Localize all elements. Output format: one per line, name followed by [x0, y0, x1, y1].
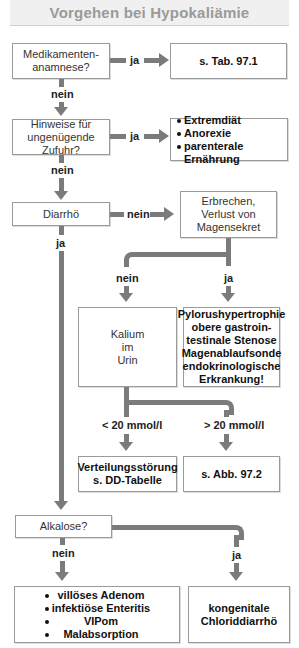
node-medikamentenanamnese: Medikamenten- anamnese?: [12, 43, 110, 79]
connector-zufuhr-ja-2: [144, 134, 160, 139]
connector-erbrechen-nein: [124, 262, 129, 266]
connector-alkalose-ja-horizontal: [112, 525, 230, 530]
label-ja-4: ja: [222, 272, 235, 284]
connector-med-ja-2: [144, 58, 160, 63]
label-ja-3: ja: [54, 237, 67, 249]
title-bar: Vorgehen bei Hypokaliämie: [10, 0, 289, 26]
connector-diarrhoe-nein-2: [150, 212, 164, 217]
zufuhr-causes-list: Extremdiät Anorexie parenterale Ernährun…: [176, 114, 287, 166]
arrow-down-icon: [55, 572, 69, 581]
list-item: parenterale Ernährung: [176, 140, 287, 166]
arrow-down-icon: [54, 191, 68, 200]
arrow-right-icon: [159, 53, 169, 67]
node-erbrechen: Erbrechen, Verlust von Magensekret: [180, 191, 277, 238]
connector-med-ja: [110, 58, 126, 63]
arrow-down-icon: [119, 442, 133, 451]
list-item: Malabsorption: [44, 628, 150, 641]
list-item: Anorexie: [176, 127, 287, 140]
connector-zufuhr-nein-2: [59, 178, 64, 192]
node-kongenitale-chloriddiarrhoe: kongenitale Chloriddiarrhö: [188, 586, 290, 643]
list-item: villöses Adenom: [44, 589, 150, 602]
label-ja-5: ja: [230, 549, 243, 561]
label-nein-1: nein: [49, 88, 76, 100]
node-zufuhr-causes: Extremdiät Anorexie parenterale Ernährun…: [170, 118, 288, 161]
connector-alkalose-ja: [234, 535, 239, 547]
arrow-down-icon: [221, 293, 235, 302]
node-diarrhoe: Diarrhö: [12, 202, 110, 226]
node-alkalose-nein-causes: villöses Adenom infektiöse Enteritis VIP…: [14, 586, 180, 643]
node-verteilungsstoerung: Verteilungsstörung s. DD-Tabelle: [78, 456, 177, 492]
label-gt-20-mmol: > 20 mmol/l: [202, 419, 266, 431]
connector-diarrhoe-ja: [59, 226, 64, 235]
connector-kalium-horizontal: [124, 400, 219, 405]
connector-zufuhr-nein: [59, 155, 64, 163]
label-nein-4: nein: [114, 272, 141, 284]
label-nein-5: nein: [50, 547, 77, 559]
connector-diarrhoe-ja-long: [59, 251, 64, 502]
connector-diarrhoe-nein: [110, 212, 124, 217]
arrow-down-icon: [119, 293, 133, 302]
connector-gt20: [224, 410, 229, 417]
connector-alkalose-nein: [60, 538, 65, 545]
connector-erbrechen-horizontal: [134, 252, 228, 257]
list-item: infektiöse Enteritis: [44, 602, 150, 615]
node-tab-97-1: s. Tab. 97.1: [170, 43, 287, 79]
node-ungenuegende-zufuhr: Hinweise für ungenügende Zufuhr?: [12, 119, 110, 155]
label-nein-2: nein: [49, 164, 76, 176]
arrow-down-icon: [229, 572, 243, 581]
arrow-right-icon: [159, 129, 169, 143]
arrow-down-icon: [219, 442, 233, 451]
label-nein-3: nein: [125, 208, 152, 220]
node-abb-97-2: s. Abb. 97.2: [183, 456, 280, 492]
label-ja-2: ja: [128, 130, 141, 142]
connector-zufuhr-ja: [110, 134, 126, 139]
node-alkalose: Alkalose?: [15, 515, 112, 538]
label-lt-20-mmol: < 20 mmol/l: [100, 419, 164, 431]
alkalose-nein-causes-list: villöses Adenom infektiöse Enteritis VIP…: [44, 589, 150, 641]
connector-med-nein: [59, 79, 64, 87]
label-ja-1: ja: [128, 54, 141, 66]
list-item: Extremdiät: [176, 114, 287, 127]
diagram-title: Vorgehen bei Hypokaliämie: [10, 4, 289, 21]
list-item: VIPom: [44, 615, 150, 628]
node-kalium-im-urin: Kalium im Urin: [78, 307, 177, 387]
arrow-right-icon: [164, 207, 174, 221]
arrow-down-icon: [54, 501, 68, 510]
node-pylorushypertrophie: Pylorushypertrophie obere gastroin- test…: [183, 307, 280, 387]
arrow-down-icon: [54, 107, 68, 116]
